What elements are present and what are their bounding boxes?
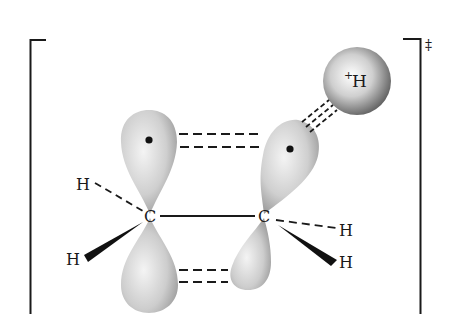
- left-upper-lobe: [121, 110, 177, 214]
- hydrogen-left-upper-label: H: [76, 175, 90, 194]
- left-bracket: [31, 40, 47, 314]
- carbon-right-label: C: [258, 207, 270, 226]
- upper-pi-overlap-dashes: [179, 134, 260, 147]
- right-upper-lobe: [261, 120, 319, 214]
- right-p-orbital: [230, 120, 319, 290]
- transition-state-diagram: ‡ + H C C H H H H: [0, 0, 456, 314]
- right-upper-hash-bond: [276, 220, 336, 228]
- hydrogen-right-upper-label: H: [339, 221, 353, 240]
- right-bracket: [403, 39, 421, 314]
- lower-pi-overlap-dashes: [179, 270, 228, 282]
- hydrogen-right-lower-label: H: [339, 253, 353, 272]
- proton-sphere: + H: [323, 47, 391, 115]
- transition-state-symbol: ‡: [425, 37, 432, 53]
- left-lower-lobe: [121, 218, 178, 313]
- left-radical-electron-dot: [145, 136, 152, 143]
- right-lower-wedge-bond: [278, 225, 337, 266]
- left-upper-hash-bond: [95, 183, 143, 211]
- right-lower-lobe: [230, 218, 271, 290]
- hydrogen-left-lower-label: H: [66, 250, 80, 269]
- proton-label: H: [352, 71, 367, 91]
- right-electron-dot: [286, 145, 293, 152]
- carbon-left-label: C: [144, 207, 156, 226]
